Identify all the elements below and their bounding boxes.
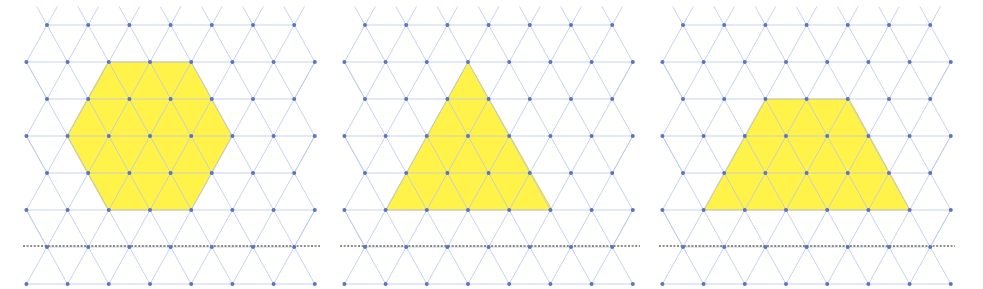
panel-1-hexagon: [0, 0, 328, 289]
figure: [0, 0, 983, 289]
panel-3-trapezoid: [655, 0, 983, 289]
panel-2-triangle: [330, 0, 658, 289]
